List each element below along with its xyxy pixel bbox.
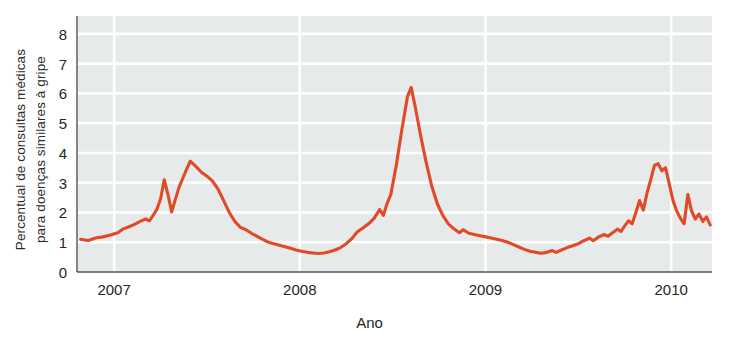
chart-figure: Percentual de consultas médicas para doe… [0, 0, 739, 344]
y-tick-label: 5 [47, 115, 67, 132]
x-tick-label: 2009 [469, 281, 502, 298]
x-tick-label: 2010 [654, 281, 687, 298]
y-axis-title-line1: Percentual de consultas médicas [11, 49, 31, 250]
y-tick-label: 7 [47, 55, 67, 72]
y-tick-label: 0 [47, 264, 67, 281]
y-tick-label: 8 [47, 25, 67, 42]
x-tick-label: 2008 [283, 281, 316, 298]
y-tick-label: 3 [47, 174, 67, 191]
plot-background [77, 16, 712, 272]
y-tick-label: 2 [47, 204, 67, 221]
x-axis-title: Ano [0, 314, 739, 331]
x-tick-label: 2007 [97, 281, 130, 298]
plot-background-group [77, 16, 712, 272]
y-tick-label: 4 [47, 144, 67, 161]
y-tick-label: 1 [47, 234, 67, 251]
y-tick-label: 6 [47, 85, 67, 102]
